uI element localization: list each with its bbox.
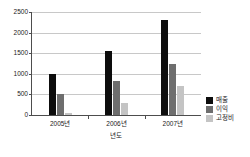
y-tick-mark: [29, 12, 32, 13]
bar: [161, 20, 168, 115]
bar-chart: 05001000150020002500 2005년2006년2007년 년도 …: [0, 0, 250, 157]
xaxis-title: 년도: [31, 133, 200, 140]
bar: [177, 86, 184, 115]
y-tick-mark: [29, 53, 32, 54]
bar-group: [105, 12, 128, 115]
x-tick-label: 2006년: [106, 121, 126, 128]
bar: [49, 74, 56, 115]
y-tick-label: 2500: [14, 9, 28, 16]
bar: [105, 51, 112, 115]
y-tick-mark: [29, 115, 32, 116]
y-tick-label: 500: [17, 91, 28, 98]
y-tick-label: 1000: [14, 71, 28, 78]
y-tick-mark: [29, 94, 32, 95]
legend-item[interactable]: 매출: [206, 97, 234, 104]
plot-area: 05001000150020002500 2005년2006년2007년: [31, 12, 201, 116]
bar-group: [161, 12, 184, 115]
y-tick-label: 1500: [14, 50, 28, 57]
bar: [169, 64, 176, 116]
legend-label: 매출: [216, 97, 228, 104]
y-tick-mark: [29, 33, 32, 34]
bar: [113, 81, 120, 115]
bar: [57, 94, 64, 115]
y-tick-label: 0: [24, 112, 28, 119]
bar-group: [49, 12, 72, 115]
x-tick-label: 2005년: [50, 121, 70, 128]
legend-label: 고정비: [216, 115, 234, 122]
legend-item[interactable]: 고정비: [206, 115, 234, 122]
x-tick-label: 2007년: [163, 121, 183, 128]
x-tick-mark: [145, 115, 146, 119]
legend-label: 이익: [216, 106, 228, 113]
chart-legend: 매출이익고정비: [206, 97, 234, 122]
bar: [121, 103, 128, 115]
bar: [65, 113, 72, 115]
legend-swatch-icon: [206, 97, 213, 104]
x-tick-mark: [88, 115, 89, 119]
legend-item[interactable]: 이익: [206, 106, 234, 113]
legend-swatch-icon: [206, 115, 213, 122]
y-tick-label: 2000: [14, 29, 28, 36]
legend-swatch-icon: [206, 106, 213, 113]
y-tick-mark: [29, 74, 32, 75]
